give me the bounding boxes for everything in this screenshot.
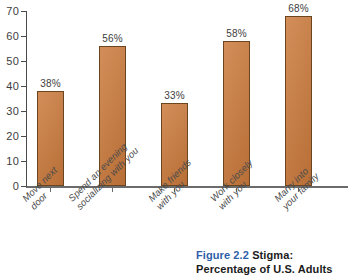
y-tick-mark-10 (21, 161, 27, 162)
x-tick-mark-2 (112, 188, 113, 192)
y-tick-label-0: 0 (0, 181, 19, 192)
y-tick-mark-20 (21, 136, 27, 137)
y-tick-label-20: 20 (0, 131, 19, 142)
y-tick-mark-40 (21, 86, 27, 87)
figure-container: 0 10 20 30 40 50 60 70 38% 56% 33% 58% 6… (0, 0, 353, 278)
y-tick-mark-30 (21, 111, 27, 112)
y-tick-label-40: 40 (0, 81, 19, 92)
bar-value-label-1: 38% (32, 79, 69, 89)
y-tick-label-60: 60 (0, 31, 19, 42)
bar-value-label-5: 68% (280, 4, 317, 14)
y-tick-mark-60 (21, 36, 27, 37)
bar-value-label-4: 58% (218, 29, 255, 39)
bar-marry-into-family[interactable] (285, 16, 312, 186)
y-tick-label-70: 70 (0, 6, 19, 17)
bar-value-label-3: 33% (156, 91, 193, 101)
figure-number: Figure 2.2 (196, 249, 249, 261)
y-tick-label-10: 10 (0, 156, 19, 167)
y-tick-mark-50 (21, 61, 27, 62)
y-tick-label-50: 50 (0, 56, 19, 67)
y-tick-label-30: 30 (0, 106, 19, 117)
figure-title: Stigma: (252, 249, 293, 261)
y-tick-mark-70 (21, 11, 27, 12)
figure-caption: Figure 2.2 Stigma: Percentage of U.S. Ad… (196, 249, 353, 276)
y-tick-mark-0 (21, 186, 27, 187)
figure-subtitle: Percentage of U.S. Adults (196, 263, 333, 275)
bar-value-label-2: 56% (94, 34, 131, 44)
